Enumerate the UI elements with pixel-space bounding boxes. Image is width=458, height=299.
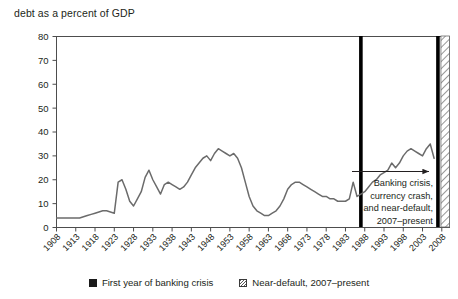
chart-legend: First year of banking crisis Near-defaul… (0, 277, 458, 288)
x-tick-label: 1973 (292, 232, 313, 253)
hatched-square-icon (239, 279, 247, 287)
x-tick-label: 1943 (176, 232, 197, 253)
legend-item-banking-crisis: First year of banking crisis (89, 277, 213, 288)
x-tick-label: 1923 (99, 232, 120, 253)
x-tick-label: 1988 (349, 232, 370, 253)
x-tick-label: 1958 (234, 232, 255, 253)
crisis-marker-2007 (436, 36, 440, 227)
x-tick-label: 1963 (253, 232, 274, 253)
chart-plot-area: 01020304050607080 1908191319181923192819… (0, 0, 458, 299)
annotation-line: Banking crisis, (374, 178, 433, 188)
solid-square-icon (89, 279, 97, 287)
x-tick-label: 1918 (80, 232, 101, 253)
x-tick-label: 1908 (41, 232, 62, 253)
x-tick-label: 1948 (195, 232, 216, 253)
x-tick-label: 1938 (157, 232, 178, 253)
x-tick-label: 1983 (330, 232, 351, 253)
y-tick-label: 60 (38, 79, 49, 90)
x-tick-label: 1953 (215, 232, 236, 253)
annotation-line: and near-default, (363, 203, 432, 213)
annotation-line: currency crash, (370, 191, 433, 201)
near-default-band (441, 36, 450, 227)
x-tick-label: 1913 (60, 232, 81, 253)
y-tick-label: 30 (38, 150, 49, 161)
y-tick-label: 80 (38, 31, 49, 42)
y-tick-label: 70 (38, 55, 49, 66)
x-tick-label: 1993 (369, 232, 390, 253)
y-axis-ticks: 01020304050607080 (38, 31, 57, 233)
crisis-marker-1987 (359, 36, 363, 227)
x-tick-label: 2008 (426, 232, 447, 253)
x-axis-ticks: 1908191319181923192819331938194319481953… (41, 228, 448, 254)
x-tick-label: 1998 (388, 232, 409, 253)
annotation-line: 2007–present (377, 216, 434, 226)
y-tick-label: 0 (43, 222, 48, 233)
legend-label-near-default: Near-default, 2007–present (252, 277, 369, 288)
x-tick-label: 2003 (407, 232, 428, 253)
x-tick-label: 1928 (118, 232, 139, 253)
x-tick-label: 1933 (138, 232, 159, 253)
banking-crisis-annotation: Banking crisis,currency crash,and near-d… (363, 178, 433, 226)
y-tick-label: 50 (38, 103, 49, 114)
x-tick-label: 1978 (311, 232, 332, 253)
chart-figure: debt as a percent of GDP 010203040506070… (0, 0, 458, 299)
x-tick-label: 1968 (272, 232, 293, 253)
y-tick-label: 10 (38, 198, 49, 209)
y-tick-label: 20 (38, 174, 49, 185)
y-tick-label: 40 (38, 126, 49, 137)
legend-item-near-default: Near-default, 2007–present (239, 277, 369, 288)
legend-label-banking-crisis: First year of banking crisis (102, 277, 213, 288)
